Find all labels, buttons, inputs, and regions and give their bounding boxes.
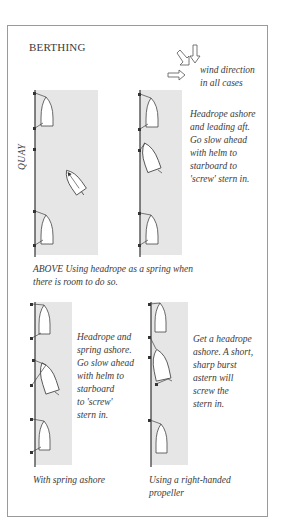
caption-line: Using a right-handed bbox=[149, 474, 231, 487]
panel-top-right bbox=[138, 90, 182, 257]
desc-line: spring ashore. bbox=[77, 344, 134, 357]
desc-line: Get a headrope bbox=[193, 333, 253, 346]
desc-line: ashore. A short, bbox=[193, 346, 253, 359]
desc-line: starboard to bbox=[190, 160, 256, 173]
above-caption-line1: ABOVE Using headrope as a spring when bbox=[33, 263, 193, 276]
panel-bottom-left-description: Headrope and spring ashore. Go slow ahea… bbox=[77, 331, 134, 422]
desc-line: Headrope ashore bbox=[190, 108, 256, 121]
panel-bottom-right bbox=[148, 302, 188, 467]
caption-line: propeller bbox=[149, 487, 231, 500]
desc-line: astern will bbox=[193, 372, 253, 385]
desc-line: screw the bbox=[193, 385, 253, 398]
panel-top-right-description: Headrope ashore and leading aft. Go slow… bbox=[190, 108, 256, 186]
desc-line: sharp burst bbox=[193, 359, 253, 372]
desc-line: stern in. bbox=[77, 409, 134, 422]
above-caption: ABOVE Using headrope as a spring when th… bbox=[33, 263, 193, 289]
desc-line: Go slow ahead bbox=[77, 357, 134, 370]
desc-line: stern in. bbox=[193, 398, 253, 411]
panel-top-left bbox=[33, 90, 98, 257]
desc-line: with helm to bbox=[190, 147, 256, 160]
above-caption-line2: there is room to do so. bbox=[33, 276, 193, 289]
desc-line: starboard bbox=[77, 383, 134, 396]
desc-line: Go slow ahead bbox=[190, 134, 256, 147]
panel-bottom-left bbox=[30, 302, 72, 467]
desc-line: and leading aft. bbox=[190, 121, 256, 134]
caption-right-handed-propeller: Using a right-handed propeller bbox=[149, 474, 231, 500]
desc-line: 'screw' stern in. bbox=[190, 173, 256, 186]
desc-line: Headrope and bbox=[77, 331, 134, 344]
quay-label: QUAY bbox=[17, 144, 27, 170]
caption-with-spring-ashore: With spring ashore bbox=[33, 474, 105, 487]
desc-line: with helm to bbox=[77, 370, 134, 383]
desc-line: to 'screw' bbox=[77, 396, 134, 409]
wind-arrows-icon bbox=[168, 45, 200, 80]
panel-bottom-right-description: Get a headrope ashore. A short, sharp bu… bbox=[193, 333, 253, 411]
